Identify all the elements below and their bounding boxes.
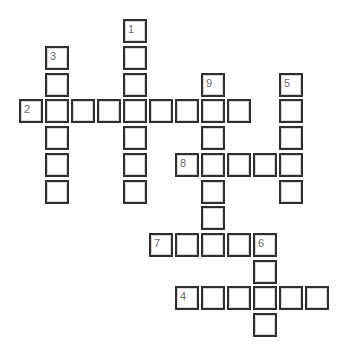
crossword-cell[interactable] xyxy=(227,233,251,257)
crossword-cell[interactable] xyxy=(123,46,147,70)
crossword-cell[interactable] xyxy=(227,286,251,310)
crossword-cell[interactable]: 2 xyxy=(19,99,43,123)
crossword-cell[interactable] xyxy=(227,153,251,177)
crossword-cell[interactable] xyxy=(123,99,147,123)
crossword-cell[interactable] xyxy=(279,180,303,204)
crossword-cell[interactable] xyxy=(305,286,329,310)
crossword-cell[interactable] xyxy=(123,153,147,177)
crossword-cell[interactable] xyxy=(97,99,121,123)
crossword-grid: 123456789 xyxy=(0,0,341,348)
crossword-cell[interactable]: 8 xyxy=(175,153,199,177)
crossword-cell[interactable] xyxy=(45,73,69,97)
crossword-cell[interactable]: 9 xyxy=(201,73,225,97)
clue-number: 9 xyxy=(206,78,212,89)
crossword-cell[interactable] xyxy=(253,260,277,284)
crossword-cell[interactable] xyxy=(175,233,199,257)
crossword-cell[interactable]: 1 xyxy=(123,19,147,43)
crossword-cell[interactable] xyxy=(45,126,69,150)
clue-number: 1 xyxy=(128,24,134,35)
crossword-cell[interactable]: 6 xyxy=(253,233,277,257)
crossword-cell[interactable] xyxy=(201,206,225,230)
clue-number: 6 xyxy=(258,238,264,249)
crossword-cell[interactable] xyxy=(201,126,225,150)
crossword-cell[interactable] xyxy=(123,180,147,204)
crossword-cell[interactable] xyxy=(201,233,225,257)
crossword-cell[interactable] xyxy=(175,99,199,123)
crossword-cell[interactable] xyxy=(253,313,277,337)
crossword-cell[interactable] xyxy=(279,126,303,150)
clue-number: 3 xyxy=(50,51,56,62)
crossword-cell[interactable]: 5 xyxy=(279,73,303,97)
crossword-cell[interactable]: 3 xyxy=(45,46,69,70)
crossword-cell[interactable] xyxy=(279,153,303,177)
crossword-cell[interactable] xyxy=(253,153,277,177)
clue-number: 5 xyxy=(284,78,290,89)
clue-number: 8 xyxy=(180,158,186,169)
clue-number: 4 xyxy=(180,291,186,302)
clue-number: 7 xyxy=(154,238,160,249)
clue-number: 2 xyxy=(24,104,30,115)
crossword-cell[interactable] xyxy=(123,126,147,150)
crossword-cell[interactable] xyxy=(149,99,173,123)
crossword-cell[interactable] xyxy=(201,180,225,204)
crossword-cell[interactable] xyxy=(45,153,69,177)
crossword-cell[interactable] xyxy=(279,286,303,310)
crossword-cell[interactable] xyxy=(201,99,225,123)
crossword-cell[interactable] xyxy=(253,286,277,310)
crossword-cell[interactable] xyxy=(45,99,69,123)
crossword-cell[interactable] xyxy=(227,99,251,123)
crossword-cell[interactable] xyxy=(201,286,225,310)
crossword-cell[interactable] xyxy=(201,153,225,177)
crossword-cell[interactable] xyxy=(45,180,69,204)
crossword-cell[interactable]: 7 xyxy=(149,233,173,257)
crossword-cell[interactable] xyxy=(279,99,303,123)
crossword-cell[interactable]: 4 xyxy=(175,286,199,310)
crossword-cell[interactable] xyxy=(71,99,95,123)
crossword-cell[interactable] xyxy=(123,73,147,97)
